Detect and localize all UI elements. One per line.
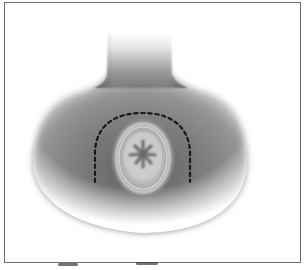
anatomy-illustration [0,0,305,270]
scan-artifact [58,263,78,266]
scan-artifact [136,262,158,265]
neck [94,33,188,88]
